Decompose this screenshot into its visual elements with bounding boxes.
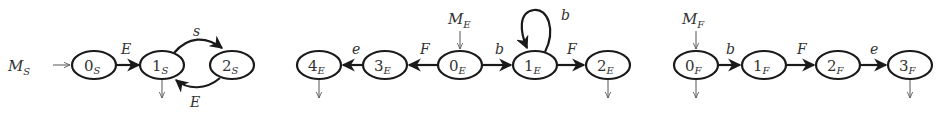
edge-label-2f-3f: e [870,41,878,57]
state-0e: 0E [438,51,482,79]
machine-s: MS E s E 0S 1S 2S [7,23,254,110]
state-3e: 3E [363,51,407,79]
state-2f: 2F [816,51,860,79]
start-label-mf: MF [681,10,705,30]
state-1e: 1E [513,51,557,79]
state-0f: 0F [674,51,718,79]
edge-label-0e-3e: F [419,41,431,57]
edge-label-0s-1s: E [120,41,131,57]
state-1s: 1S [140,51,184,79]
edge-label-0e-1e: b [495,41,504,57]
state-4e: 4E [297,51,341,79]
edge-label-1e-2e: F [566,41,578,57]
edge-1e-self-loop [522,10,550,52]
edge-label-1e-1e: b [561,7,570,23]
machine-e: ME e F b b F 4E 3E 0E [297,7,630,98]
machine-f: MF b F e 0F 1F 2F 3F [674,10,932,98]
state-2e: 2E [586,51,630,79]
edge-label-3e-4e: e [352,41,360,57]
start-label-me: ME [447,10,471,30]
edge-1s-2s [174,40,222,53]
edge-label-0f-1f: b [726,41,735,57]
state-machine-diagram: MS E s E 0S 1S 2S ME e [0,0,946,114]
edge-label-1s-2s: s [193,23,200,39]
state-2s: 2S [210,51,254,79]
state-3f: 3F [888,51,932,79]
state-1f: 1F [742,51,786,79]
edge-2s-1s [176,78,220,87]
state-0s: 0S [72,51,116,79]
start-label-ms: MS [7,57,30,77]
edge-label-2s-1s: E [189,94,200,110]
edge-label-1f-2f: F [796,41,808,57]
